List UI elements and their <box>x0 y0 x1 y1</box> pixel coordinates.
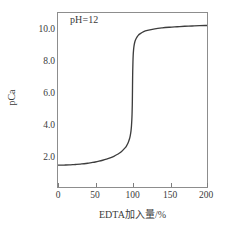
x-tick-label-50: 50 <box>90 191 100 201</box>
y-axis-title: pCa <box>6 78 17 118</box>
ph-annotation-label: pH=12 <box>70 14 98 25</box>
x-axis-title: EDTA加入量/% <box>57 206 208 221</box>
y-tick-label-10: 10.0 <box>3 25 55 35</box>
x-tick-label-200: 200 <box>199 191 213 201</box>
plot-area <box>57 12 208 188</box>
chart-figure: 10.0 8.0 6.0 4.0 2.0 pH=12 0 50 100 150 … <box>0 0 235 232</box>
x-tick-mark-50 <box>96 183 97 187</box>
titration-curve-line <box>58 25 207 165</box>
y-tick-label-8: 8.0 <box>3 57 55 67</box>
x-tick-label-100: 100 <box>125 191 139 201</box>
x-tick-mark-100 <box>133 183 134 187</box>
y-tick-label-4: 4.0 <box>3 121 55 131</box>
x-tick-mark-200 <box>207 183 208 187</box>
x-tick-mark-0 <box>58 183 59 187</box>
x-tick-label-150: 150 <box>163 191 177 201</box>
x-tick-mark-150 <box>171 183 172 187</box>
y-tick-label-2: 2.0 <box>3 153 55 163</box>
x-tick-label-0: 0 <box>56 191 61 201</box>
titration-curve-svg <box>58 13 207 187</box>
